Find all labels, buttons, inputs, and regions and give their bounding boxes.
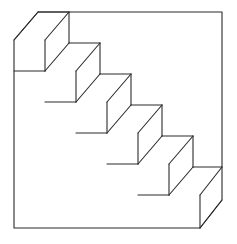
figure-canvas: Schroder Staircase Ambiguous staircase o… (0, 0, 237, 244)
schroder-staircase-diagram (0, 0, 237, 244)
